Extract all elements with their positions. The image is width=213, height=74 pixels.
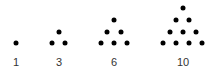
dot-icon	[181, 6, 186, 11]
dot-icon	[161, 41, 166, 46]
label-10: 10	[177, 56, 189, 68]
dot-icon	[105, 30, 110, 35]
dot-icon	[112, 18, 117, 23]
dot-icon	[57, 30, 62, 35]
dot-icon	[174, 41, 179, 46]
label-3: 3	[56, 56, 62, 68]
dot-icon	[50, 41, 55, 46]
label-6: 6	[111, 56, 117, 68]
dot-icon	[99, 41, 104, 46]
dot-icon	[119, 30, 124, 35]
dot-icon	[174, 18, 179, 23]
label-1: 1	[13, 56, 19, 68]
dot-icon	[14, 41, 19, 46]
dot-icon	[125, 41, 130, 46]
dot-icon	[187, 18, 192, 23]
dot-icon	[194, 30, 199, 35]
dot-icon	[112, 41, 117, 46]
dot-icon	[168, 30, 173, 35]
dot-icon	[200, 41, 205, 46]
dot-icon	[181, 30, 186, 35]
dot-icon	[63, 41, 68, 46]
dot-icon	[187, 41, 192, 46]
